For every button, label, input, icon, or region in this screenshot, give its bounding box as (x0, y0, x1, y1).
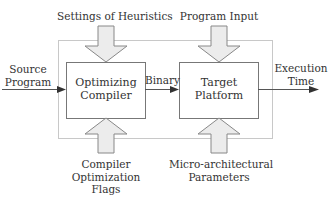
compiler-box-label: Optimizing Compiler (66, 77, 146, 102)
execution-line-2: Time (272, 75, 330, 88)
flags-line-1: Compiler (61, 158, 151, 171)
heuristics-label: Settings of Heuristics (57, 10, 157, 23)
program-input-label: Program Input (179, 10, 259, 23)
compiler-flags-label: Compiler Optimization Flags (61, 158, 151, 196)
compiler-flags-arrow-icon (85, 118, 127, 153)
execution-arrowhead-icon (309, 86, 319, 93)
micro-params-arrow-icon (198, 118, 240, 153)
compiler-line-2: Compiler (66, 90, 146, 103)
program-input-arrow-icon (198, 26, 240, 62)
source-line-1: Source (2, 63, 54, 76)
micro-line-1: Micro-architectural (169, 158, 269, 171)
target-box-label: Target Platform (179, 77, 259, 102)
source-line-2: Program (2, 76, 54, 89)
flags-line-2: Optimization (61, 171, 151, 184)
diagram-canvas (0, 0, 332, 207)
flags-line-3: Flags (61, 183, 151, 196)
micro-line-2: Parameters (169, 171, 269, 184)
source-program-label: Source Program (2, 63, 54, 88)
compiler-line-1: Optimizing (66, 77, 146, 90)
execution-time-label: Execution Time (272, 62, 330, 87)
target-line-2: Platform (179, 90, 259, 103)
heuristics-arrow-icon (85, 26, 127, 62)
source-arrowhead-icon (57, 86, 66, 93)
target-line-1: Target (179, 77, 259, 90)
execution-line-1: Execution (272, 62, 330, 75)
binary-label: Binary (145, 74, 179, 87)
binary-arrowhead-icon (170, 86, 179, 93)
micro-params-label: Micro-architectural Parameters (169, 158, 269, 183)
